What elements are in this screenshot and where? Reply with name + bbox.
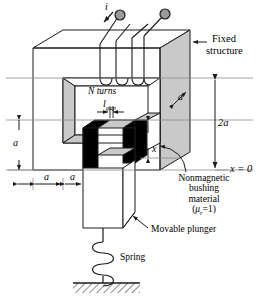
coil-terminal-icon bbox=[160, 9, 170, 19]
width-a-2-label: a bbox=[70, 172, 75, 183]
figure-canvas: i Fixed structure N turns lgap a 2a x = … bbox=[0, 0, 260, 297]
fixed-structure-label-line2: structure bbox=[206, 45, 243, 56]
n-turns-label: N turns bbox=[88, 86, 116, 96]
nonmagnetic-line2: bushing bbox=[150, 183, 258, 193]
nonmagnetic-line3: material bbox=[150, 194, 258, 204]
ground-support bbox=[73, 283, 140, 293]
spring-label: Spring bbox=[120, 252, 145, 262]
mu-value: =1) bbox=[203, 204, 216, 214]
l-gap-subscript: gap bbox=[106, 104, 116, 111]
width-a-1-label: a bbox=[44, 172, 49, 183]
nonmagnetic-bushing-label: Nonmagnetic bushing material (μr=1) bbox=[150, 173, 258, 217]
coil-terminals bbox=[115, 9, 170, 20]
nonmagnetic-line1: Nonmagnetic bbox=[150, 173, 258, 183]
coil-winding bbox=[100, 16, 163, 85]
height-2a-label: 2a bbox=[218, 117, 229, 128]
l-gap-label: lgap bbox=[103, 99, 116, 111]
coil-terminal-icon bbox=[115, 10, 125, 20]
left-height-a-label: a bbox=[13, 138, 18, 149]
fixed-structure-label-line1: Fixed bbox=[212, 33, 236, 44]
depth-a-label: a bbox=[178, 92, 183, 103]
current-direction-arrow-icon bbox=[104, 12, 113, 22]
current-label: i bbox=[105, 2, 108, 13]
leader-movable-plunger bbox=[133, 216, 148, 228]
n-turns-symbol: N turns bbox=[88, 86, 116, 96]
nonmagnetic-permeability: (μr=1) bbox=[150, 204, 258, 217]
spring-assembly bbox=[93, 228, 114, 286]
movable-plunger-label: Movable plunger bbox=[151, 224, 216, 234]
x-travel-label: x bbox=[152, 144, 156, 155]
